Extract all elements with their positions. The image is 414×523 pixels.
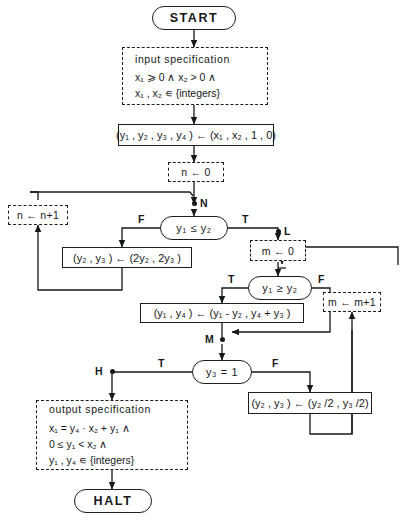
m-increment-label: m ← m+1: [328, 296, 376, 308]
cutpoint-n-dot: [192, 201, 197, 206]
n-increment-label: n ← n+1: [17, 209, 59, 221]
start-terminal: START: [152, 6, 236, 30]
initial-assignment-box: (y₁ , y₂ , y₃ , y₄ ) ← (x₁ , x₂ , 1 , 0): [118, 124, 274, 146]
initial-assignment-label: (y₁ , y₂ , y₃ , y₄ ) ← (x₁ , x₂ , 1 , 0): [116, 129, 276, 141]
output-spec-line-3: y₁ , y₄ ∊ {integers}: [49, 452, 134, 468]
edge-label-y3-true: T: [158, 358, 164, 369]
halt-terminal: HALT: [74, 489, 152, 513]
halve-box: (y₂ , y₃ ) ← (y₂ /2 , y₃ /2): [248, 392, 372, 414]
m-increment-assertion: m ← m+1: [323, 292, 381, 312]
halt-label: HALT: [94, 494, 133, 508]
n-init-assertion: n ← 0: [168, 162, 224, 182]
decision-y1-ge-y2-label: y₁ ≥ y₂: [262, 282, 297, 294]
double-y2-y3-label: (y₂ , y₃ ) ← (2y₂ , 2y₃ ): [73, 252, 181, 264]
cutpoint-h-dot: [110, 369, 115, 374]
edge-label-ge-true: T: [228, 274, 234, 285]
edge-label-y3-false: F: [272, 358, 278, 369]
input-spec-title: input specification: [135, 51, 230, 67]
edge-label-le-true: T: [242, 214, 248, 225]
output-spec-title: output specification: [49, 401, 151, 417]
subtract-label: (y₁ , y₄ ) ← (y₁ - y₂ , y₄ + y₃ ): [154, 307, 291, 319]
cutpoint-l-label: L: [284, 226, 290, 237]
decision-y1-ge-y2: y₁ ≥ y₂: [248, 276, 312, 300]
n-increment-assertion: n ← n+1: [8, 205, 68, 225]
cutpoint-m-label: M: [205, 334, 214, 345]
decision-y1-le-y2-label: y₁ ≤ y₂: [176, 222, 211, 234]
start-label: START: [170, 11, 219, 25]
decision-y1-le-y2: y₁ ≤ y₂: [160, 216, 228, 240]
edge-label-le-false: F: [138, 214, 144, 225]
input-spec-line-1: x₁ ⩾ 0 ∧ x₂ > 0 ∧: [135, 69, 216, 85]
output-spec-line-1: x₁ = y₄ · x₂ + y₁ ∧: [49, 420, 130, 436]
m-init-assertion: m ← 0: [250, 240, 306, 261]
cutpoint-n-label: N: [200, 198, 208, 209]
flowchart-canvas: START input specification x₁ ⩾ 0 ∧ x₂ > …: [0, 0, 414, 523]
decision-y3-equals-1-label: y₃ = 1: [206, 366, 238, 378]
decision-y3-equals-1: y₃ = 1: [192, 360, 252, 384]
m-init-label: m ← 0: [262, 245, 294, 257]
edge-label-ge-false: F: [318, 274, 324, 285]
output-specification-box: output specification x₁ = y₄ · x₂ + y₁ ∧…: [36, 400, 188, 470]
input-spec-line-2: x₁ , x₂ ∊ {integers}: [135, 85, 220, 101]
halve-label: (y₂ , y₃ ) ← (y₂ /2 , y₃ /2): [251, 397, 368, 409]
n-init-label: n ← 0: [181, 166, 211, 178]
cutpoint-m-dot: [220, 337, 225, 342]
input-specification-box: input specification x₁ ⩾ 0 ∧ x₂ > 0 ∧ x₁…: [122, 47, 268, 105]
cutpoint-h-label: H: [95, 366, 103, 377]
subtract-box: (y₁ , y₄ ) ← (y₁ - y₂ , y₄ + y₃ ): [140, 303, 304, 323]
output-spec-line-2: 0 ≤ y₁ < x₂ ∧: [49, 436, 107, 452]
cutpoint-l-dot: [276, 229, 281, 234]
double-y2-y3-box: (y₂ , y₃ ) ← (2y₂ , 2y₃ ): [62, 247, 192, 268]
